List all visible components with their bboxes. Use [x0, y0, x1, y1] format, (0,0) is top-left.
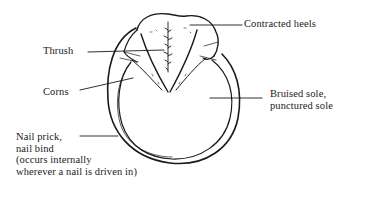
label-nail-prick-line3: (occurs internally: [16, 154, 137, 166]
label-bruised-sole-line2: punctured sole: [270, 100, 333, 112]
hoof-diagram: Contracted heels Thrush Corns Bruised so…: [0, 0, 365, 201]
frog-left-inner: [132, 60, 162, 90]
label-nail-prick-line4: wherever a nail is driven in): [16, 166, 137, 178]
label-corns: Corns: [43, 86, 69, 98]
label-nail-prick-line2: nail bind: [16, 143, 137, 155]
label-bruised-sole-line1: Bruised sole,: [270, 88, 333, 100]
bar-right: [200, 42, 218, 60]
label-nail-prick: Nail prick, nail bind (occurs internally…: [16, 131, 137, 177]
thrush-texture: [164, 22, 172, 72]
leader-corns: [80, 78, 133, 90]
frog-right-inner: [176, 58, 206, 90]
frog-left-outer: [141, 34, 168, 92]
label-bruised-sole: Bruised sole, punctured sole: [270, 88, 333, 111]
frog-right-outer: [170, 30, 197, 92]
bar-left: [120, 52, 140, 62]
heel-bulbs: [137, 14, 218, 56]
label-thrush: Thrush: [43, 45, 73, 57]
label-nail-prick-line1: Nail prick,: [16, 131, 137, 143]
label-contracted-heels: Contracted heels: [244, 18, 316, 30]
leader-thrush: [88, 50, 164, 52]
stipple-marks: [150, 28, 191, 84]
